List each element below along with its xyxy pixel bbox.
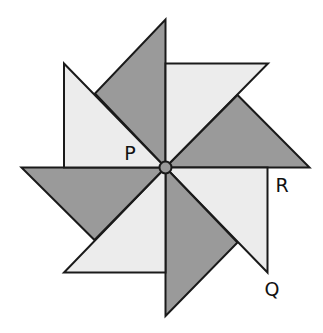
label-p: P xyxy=(124,142,135,164)
label-q: Q xyxy=(265,278,280,300)
label-r: R xyxy=(275,174,288,196)
pinwheel-diagram: P R Q xyxy=(0,0,323,333)
center-point-p xyxy=(160,162,172,174)
